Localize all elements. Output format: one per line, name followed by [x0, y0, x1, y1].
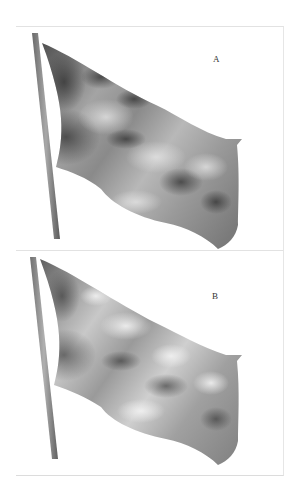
figure-panel-b: B: [16, 250, 284, 476]
waving-flag-b-image: [16, 251, 283, 475]
waving-flag-a-image: [16, 27, 283, 251]
panel-label-a: A: [213, 54, 220, 64]
panel-label-b: B: [212, 291, 218, 301]
figure-panel-a: A: [16, 26, 284, 251]
